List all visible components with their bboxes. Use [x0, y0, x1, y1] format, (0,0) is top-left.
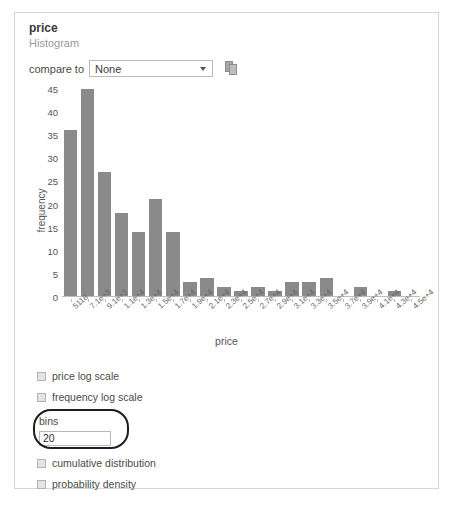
bar-slot — [62, 89, 79, 296]
histogram-bar[interactable] — [64, 130, 77, 296]
x-axis-tick: 4.5e+4 — [403, 299, 420, 339]
bar-slot — [181, 89, 198, 296]
option-label-frequency-log-scale: frequency log scale — [52, 392, 142, 404]
x-axis-tick-mark — [71, 299, 72, 302]
x-axis-tick: 3.3e+4 — [301, 299, 318, 339]
y-axis-tick: 35 — [47, 130, 58, 141]
bar-slot — [352, 89, 369, 296]
x-axis-tick: 1.7e+4 — [164, 299, 181, 339]
x-axis-tick-mark — [156, 299, 157, 302]
histogram-bar[interactable] — [81, 89, 94, 296]
bar-slot — [318, 89, 335, 296]
x-axis-tick: 2.7e+4 — [250, 299, 267, 339]
histogram-card: price Histogram compare to None frequenc… — [14, 12, 439, 489]
option-label-price-log-scale: price log scale — [52, 371, 119, 383]
y-axis-tick: 25 — [47, 176, 58, 187]
option-label-probability-density: probability density — [52, 479, 136, 491]
bar-slot — [198, 89, 215, 296]
bar-slot — [403, 89, 420, 296]
plot-area: 051015202530354045 — [62, 89, 420, 297]
x-axis-tick-mark — [122, 299, 123, 302]
bar-slot — [301, 89, 318, 296]
checkbox-price-log-scale[interactable] — [37, 372, 46, 381]
y-axis-tick: 10 — [47, 245, 58, 256]
bar-slot — [335, 89, 352, 296]
histogram-bar[interactable] — [132, 232, 145, 296]
x-axis-tick: 5118 — [62, 299, 79, 339]
x-axis-tick: 1.1e+4 — [113, 299, 130, 339]
checkbox-probability-density[interactable] — [37, 480, 46, 489]
bins-group: bins — [37, 412, 125, 448]
option-price-log-scale[interactable]: price log scale — [37, 371, 207, 383]
checkbox-frequency-log-scale[interactable] — [37, 393, 46, 402]
bar-slot — [267, 89, 284, 296]
histogram-chart: frequency 051015202530354045 51187.1e+39… — [15, 87, 438, 347]
x-axis-tick-mark — [88, 299, 89, 302]
x-axis-tick: 9.1e+3 — [96, 299, 113, 339]
compare-to-row: compare to None — [29, 60, 438, 77]
x-axis-tick: 3.1e+4 — [284, 299, 301, 339]
y-axis-tick: 5 — [53, 268, 58, 279]
copy-icon[interactable] — [225, 61, 238, 76]
x-axis-tick: 2.9e+4 — [267, 299, 284, 339]
x-axis-tick: 1.5e+4 — [147, 299, 164, 339]
x-axis-tick: 3.9e+4 — [352, 299, 369, 339]
bar-series — [62, 89, 420, 296]
y-axis-tick: 0 — [53, 292, 58, 303]
card-subtitle: Histogram — [29, 36, 438, 51]
bar-slot — [369, 89, 386, 296]
bar-slot — [147, 89, 164, 296]
bar-slot — [284, 89, 301, 296]
histogram-bar[interactable] — [149, 199, 162, 296]
bins-label: bins — [39, 415, 125, 428]
x-axis-tick: 7.1e+3 — [79, 299, 96, 339]
checkbox-cumulative-distribution[interactable] — [37, 459, 46, 468]
bar-slot — [164, 89, 181, 296]
y-axis-label: frequency — [36, 176, 47, 246]
y-axis-tick: 20 — [47, 199, 58, 210]
x-axis-tick: 4.1e+4 — [369, 299, 386, 339]
x-axis-tick: 2.3e+4 — [215, 299, 232, 339]
y-axis-tick: 15 — [47, 222, 58, 233]
bins-input[interactable] — [39, 431, 111, 446]
x-axis-tick: 3.5e+4 — [318, 299, 335, 339]
bar-slot — [96, 89, 113, 296]
histogram-bar[interactable] — [98, 172, 111, 296]
compare-to-label: compare to — [29, 63, 84, 75]
bar-slot — [215, 89, 232, 296]
x-axis-tick: 2.1e+4 — [198, 299, 215, 339]
x-axis-tick-mark — [105, 299, 106, 302]
y-axis-tick: 45 — [47, 84, 58, 95]
y-axis-tick: 30 — [47, 153, 58, 164]
compare-to-value: None — [90, 63, 121, 75]
x-axis-tick: 4.3e+4 — [386, 299, 403, 339]
option-cumulative-distribution[interactable]: cumulative distribution — [37, 458, 207, 470]
x-axis-tick: 2.5e+4 — [232, 299, 249, 339]
histogram-bar[interactable] — [115, 213, 128, 296]
card-header: price Histogram — [15, 13, 438, 51]
compare-to-select[interactable]: None — [89, 60, 213, 77]
copy-icon-front-sheet — [229, 64, 237, 75]
bar-slot — [250, 89, 267, 296]
option-probability-density[interactable]: probability density — [37, 479, 207, 491]
x-axis-ticks: 51187.1e+39.1e+31.1e+41.3e+41.5e+41.7e+4… — [62, 299, 420, 339]
bar-slot — [130, 89, 147, 296]
bar-slot — [79, 89, 96, 296]
options-panel: price log scale frequency log scale bins… — [37, 371, 207, 499]
bar-slot — [113, 89, 130, 296]
chevron-down-icon — [200, 67, 206, 71]
y-axis-tick: 40 — [47, 107, 58, 118]
x-axis-tick: 1.3e+4 — [130, 299, 147, 339]
bar-slot — [386, 89, 403, 296]
bar-slot — [232, 89, 249, 296]
x-axis-tick-mark — [139, 299, 140, 302]
option-frequency-log-scale[interactable]: frequency log scale — [37, 392, 207, 404]
x-axis-label: price — [15, 335, 438, 347]
x-axis-tick: 3.7e+4 — [335, 299, 352, 339]
histogram-bar[interactable] — [166, 232, 179, 296]
page-title: price — [29, 21, 438, 35]
option-label-cumulative-distribution: cumulative distribution — [52, 458, 156, 470]
x-axis-tick: 1.9e+4 — [181, 299, 198, 339]
